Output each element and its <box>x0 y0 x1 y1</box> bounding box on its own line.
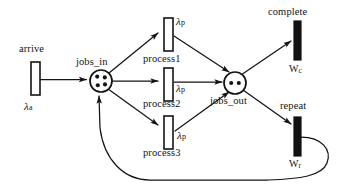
label-jobs-in: jobs_in <box>76 57 108 68</box>
label-complete: complete <box>268 7 307 18</box>
transition-arrive[interactable] <box>31 62 40 95</box>
label-process2: process2 <box>143 99 181 110</box>
transition-process3[interactable] <box>164 116 173 149</box>
label-process1-rate: λp <box>176 16 185 27</box>
label-process2-rate: λp <box>176 83 185 94</box>
label-arrive: arrive <box>19 44 44 55</box>
label-repeat: repeat <box>280 101 306 112</box>
label-complete-weight: Wc <box>289 64 302 75</box>
label-process3: process3 <box>143 148 181 159</box>
label-jobs-out: jobs_out <box>210 96 247 107</box>
arc-process1-to-jobs-out <box>174 36 229 72</box>
arc-jobs-out-to-complete <box>241 41 291 75</box>
label-repeat-weight: Wr <box>289 159 301 170</box>
petri-net-diagram: arrive λa jobs_in λp process1 λp process… <box>0 0 346 186</box>
transition-process2[interactable] <box>164 68 173 101</box>
label-process1: process1 <box>143 54 181 65</box>
place-jobs-out[interactable] <box>224 72 246 94</box>
transition-repeat[interactable] <box>294 117 301 156</box>
label-arrive-rate: λa <box>24 101 33 112</box>
transition-process1[interactable] <box>164 18 173 51</box>
transitions-group <box>31 18 301 156</box>
place-jobs-in[interactable] <box>90 70 112 92</box>
transition-complete[interactable] <box>294 21 301 60</box>
label-process3-rate: λp <box>177 130 186 141</box>
